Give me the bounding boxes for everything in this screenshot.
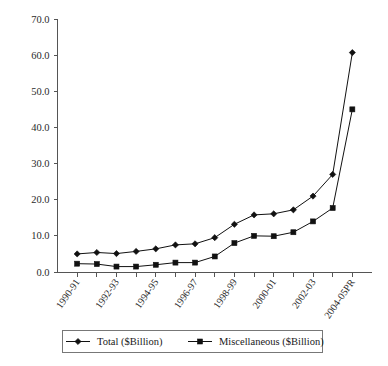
data-point-marker	[290, 207, 296, 213]
data-point-marker	[330, 206, 335, 211]
data-point-marker	[193, 260, 198, 265]
x-tick-label: 1992-93	[93, 277, 121, 311]
y-tick-label: 40.0	[31, 122, 49, 133]
y-tick-label: 0.0	[36, 267, 49, 278]
data-series-group	[74, 50, 355, 270]
y-axis-ticks	[54, 19, 58, 272]
data-point-marker	[251, 212, 257, 218]
data-point-marker	[232, 241, 237, 246]
data-point-marker	[153, 262, 158, 267]
x-tick-label: 1998-99	[211, 277, 239, 311]
line-chart: 0.010.020.030.040.050.060.070.0 1990-911…	[0, 0, 388, 366]
data-point-marker	[173, 260, 178, 265]
y-axis-tick-labels: 0.010.020.030.040.050.060.070.0	[31, 14, 49, 278]
data-point-marker	[349, 50, 355, 56]
chart-container: 0.010.020.030.040.050.060.070.0 1990-911…	[0, 0, 388, 366]
data-point-marker	[134, 264, 139, 269]
x-tick-label: 1994-95	[132, 277, 160, 311]
data-point-marker	[271, 211, 277, 217]
legend-entries: Total ($Billion)Miscellaneous ($Billion)	[66, 336, 324, 348]
y-axis-group: 0.010.020.030.040.050.060.070.0	[31, 14, 57, 278]
x-axis-group: 1990-911992-931994-951996-971998-992000-…	[54, 272, 372, 320]
data-point-marker	[94, 249, 100, 255]
legend: Total ($Billion)Miscellaneous ($Billion)	[63, 331, 325, 353]
y-tick-label: 70.0	[31, 14, 49, 25]
series-1	[74, 50, 355, 258]
x-tick-label: 2002-03	[290, 277, 318, 311]
y-tick-label: 60.0	[31, 50, 49, 61]
legend-entry-1: Total ($Billion)	[66, 336, 163, 348]
legend-label: Miscellaneous ($Billion)	[219, 336, 324, 348]
data-point-marker	[75, 261, 80, 266]
x-tick-label: 1990-91	[54, 277, 82, 311]
data-point-marker	[133, 248, 139, 254]
y-tick-label: 50.0	[31, 86, 49, 97]
data-point-marker	[311, 219, 316, 224]
legend-marker-diamond	[75, 338, 81, 344]
legend-label: Total ($Billion)	[97, 336, 163, 348]
data-point-marker	[231, 221, 237, 227]
data-point-marker	[192, 241, 198, 247]
legend-marker-square	[198, 339, 203, 344]
x-tick-label: 2000-01	[250, 277, 278, 311]
data-point-marker	[153, 246, 159, 252]
data-point-marker	[291, 230, 296, 235]
x-axis-tick-labels: 1990-911992-931994-951996-971998-992000-…	[54, 277, 358, 321]
x-tick-label: 2004-05PR	[322, 277, 357, 321]
x-tick-label: 1996-97	[172, 277, 200, 311]
data-point-marker	[172, 242, 178, 248]
data-point-marker	[252, 233, 257, 238]
data-point-marker	[113, 250, 119, 256]
legend-entry-2: Miscellaneous ($Billion)	[188, 336, 324, 348]
data-point-marker	[212, 235, 218, 241]
data-point-marker	[74, 251, 80, 257]
series-line	[77, 109, 352, 266]
y-tick-label: 30.0	[31, 158, 49, 169]
y-tick-label: 20.0	[31, 194, 49, 205]
y-tick-label: 10.0	[31, 230, 49, 241]
data-point-marker	[350, 107, 355, 112]
data-point-marker	[114, 264, 119, 269]
series-2	[75, 107, 355, 269]
data-point-marker	[271, 234, 276, 239]
data-point-marker	[212, 254, 217, 259]
data-point-marker	[94, 262, 99, 267]
